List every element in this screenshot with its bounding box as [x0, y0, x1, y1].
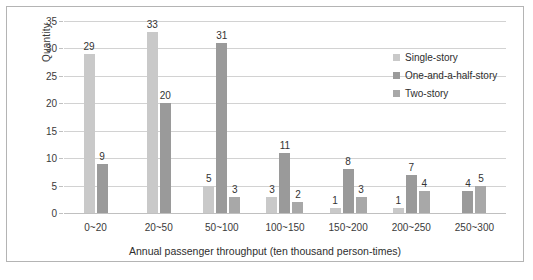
bar-value-label: 3 — [358, 184, 364, 195]
y-tick-label-20: 20 — [46, 98, 57, 109]
bar-group: 531350~100 — [190, 21, 253, 213]
bar-value-label: 5 — [206, 173, 212, 184]
bar-value-label: 31 — [216, 30, 227, 41]
bar[interactable] — [84, 54, 95, 213]
bar-group: 2990~20 — [64, 21, 127, 213]
bar[interactable] — [419, 191, 430, 213]
bar-slot: 20 — [160, 21, 171, 213]
bar[interactable] — [147, 32, 158, 213]
y-tick-label-5: 5 — [51, 180, 57, 191]
bar-value-label: 4 — [421, 178, 427, 189]
chart-frame: Quantity 05101520253035 2990~20332020~50… — [6, 6, 524, 262]
x-tick-label: 100~150 — [265, 222, 304, 233]
x-tick-label: 50~100 — [205, 222, 239, 233]
y-tick-mark-20 — [59, 103, 63, 104]
bar[interactable] — [216, 43, 227, 213]
bar-value-label: 1 — [332, 195, 338, 206]
legend-swatch-icon — [393, 90, 400, 97]
bar[interactable] — [292, 202, 303, 213]
bar-value-label: 20 — [160, 90, 171, 101]
x-tick-label: 200~250 — [392, 222, 431, 233]
bar[interactable] — [203, 186, 214, 213]
legend-swatch-icon — [393, 72, 400, 79]
y-tick-mark-30 — [59, 48, 63, 49]
bar-slot: 2 — [292, 21, 303, 213]
bar[interactable] — [229, 197, 240, 213]
x-tick-label: 0~20 — [84, 222, 107, 233]
bar[interactable] — [330, 208, 341, 213]
bar[interactable] — [475, 186, 486, 213]
bar[interactable] — [279, 153, 290, 213]
bar-value-label: 9 — [99, 151, 105, 162]
bar-slot: 8 — [343, 21, 354, 213]
bar[interactable] — [160, 103, 171, 213]
y-tick-mark-0 — [59, 213, 63, 214]
bar-slot: 9 — [97, 21, 108, 213]
bar-value-label: 8 — [345, 156, 351, 167]
bar-value-label: 3 — [269, 184, 275, 195]
legend-item-2[interactable]: Two-story — [393, 84, 497, 102]
y-tick-mark-15 — [59, 131, 63, 132]
bar-slot: 33 — [147, 21, 158, 213]
y-tick-mark-25 — [59, 76, 63, 77]
bar-value-label: 3 — [232, 184, 238, 195]
x-axis-title: Annual passenger throughput (ten thousan… — [7, 245, 523, 257]
bar-value-label: 29 — [84, 41, 95, 52]
x-tick-label: 150~200 — [329, 222, 368, 233]
bar-slot: 1 — [330, 21, 341, 213]
bar-slot: 31 — [216, 21, 227, 213]
y-tick-label-0: 0 — [51, 208, 57, 219]
legend-item-0[interactable]: Single-story — [393, 48, 497, 66]
y-tick-label-10: 10 — [46, 153, 57, 164]
bar-slot: 3 — [356, 21, 367, 213]
bar-value-label: 1 — [395, 195, 401, 206]
bar[interactable] — [97, 164, 108, 213]
y-tick-label-30: 30 — [46, 43, 57, 54]
bar-slot: 11 — [279, 21, 290, 213]
gridline-0 — [64, 213, 506, 214]
bar[interactable] — [356, 197, 367, 213]
bar-slot: 3 — [229, 21, 240, 213]
bar-group: 183150~200 — [317, 21, 380, 213]
bar[interactable] — [393, 208, 404, 213]
legend-item-1[interactable]: One-and-a-half-story — [393, 66, 497, 84]
bar[interactable] — [266, 197, 277, 213]
y-tick-mark-35 — [59, 21, 63, 22]
legend-label: Single-story — [405, 52, 458, 63]
y-tick-label-35: 35 — [46, 16, 57, 27]
bar-slot: 5 — [203, 21, 214, 213]
chart-legend: Single-storyOne-and-a-half-storyTwo-stor… — [393, 48, 497, 102]
legend-label: One-and-a-half-story — [405, 70, 497, 81]
y-tick-mark-10 — [59, 158, 63, 159]
x-tick-label: 250~300 — [455, 222, 494, 233]
bar-value-label: 11 — [280, 140, 290, 151]
bar-slot: 3 — [266, 21, 277, 213]
legend-swatch-icon — [393, 54, 400, 61]
bar[interactable] — [406, 175, 417, 213]
bar-group: 332020~50 — [127, 21, 190, 213]
bar-value-label: 5 — [478, 173, 484, 184]
bar-group: 3112100~150 — [253, 21, 316, 213]
bar[interactable] — [462, 191, 473, 213]
bar-value-label: 2 — [295, 189, 301, 200]
x-tick-label: 20~50 — [145, 222, 173, 233]
bar-value-label: 4 — [465, 178, 471, 189]
bar-value-label: 7 — [408, 162, 414, 173]
bar-slot: 29 — [84, 21, 95, 213]
bar[interactable] — [343, 169, 354, 213]
y-tick-label-15: 15 — [46, 125, 57, 136]
y-tick-mark-5 — [59, 186, 63, 187]
bar-value-label: 33 — [147, 19, 158, 30]
legend-label: Two-story — [405, 88, 448, 99]
y-tick-label-25: 25 — [46, 70, 57, 81]
